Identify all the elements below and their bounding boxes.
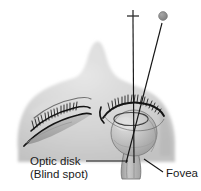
figure-canvas: Optic disk (Blind spot) Fovea bbox=[0, 0, 201, 191]
target-dot-marker bbox=[159, 12, 168, 21]
label-optic-disk: Optic disk (Blind spot) bbox=[30, 155, 88, 180]
label-fovea: Fovea bbox=[166, 167, 199, 179]
fovea-label: Fovea bbox=[166, 167, 199, 179]
eye-anatomy-figure: Optic disk (Blind spot) Fovea bbox=[0, 0, 201, 191]
optic-disk-label-line2: (Blind spot) bbox=[30, 168, 88, 180]
cornea-fill bbox=[114, 113, 148, 126]
gray-dot-icon bbox=[159, 12, 168, 21]
optic-disk-label-line1: Optic disk bbox=[30, 155, 81, 167]
